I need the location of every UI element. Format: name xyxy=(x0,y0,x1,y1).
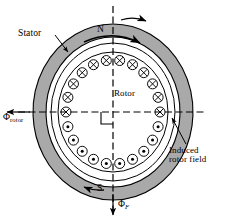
conductor-cross xyxy=(77,68,87,78)
machine-cross-section-figure: Stator N S Rotor Φrotor ΦF Inducedrotor … xyxy=(0,0,226,221)
south-pole-label: S xyxy=(97,184,102,194)
conductor-cross xyxy=(101,56,111,66)
phi-rotor-subscript: rotor xyxy=(10,116,23,123)
conductor-cross xyxy=(153,92,163,102)
conductor-cross xyxy=(68,79,78,89)
phi-field-label: ΦF xyxy=(118,200,129,210)
conductor-dot xyxy=(148,135,158,145)
conductor-dot xyxy=(139,146,149,156)
conductor-cross xyxy=(115,56,125,66)
conductor-dot xyxy=(153,122,163,132)
conductor-dot xyxy=(63,122,73,132)
phi-rotor-symbol: Φ xyxy=(3,112,10,122)
conductor-cross xyxy=(63,92,73,102)
conductor-dot xyxy=(128,154,138,164)
conductor-cross xyxy=(88,60,98,70)
conductor-dot xyxy=(68,135,78,145)
conductor-cross xyxy=(128,60,138,70)
induced-field-line2: rotor field xyxy=(169,155,206,164)
conductor-dot xyxy=(88,154,98,164)
north-pole-label: N xyxy=(97,25,104,35)
phi-field-symbol: Φ xyxy=(118,199,125,209)
phi-rotor-label: Φrotor xyxy=(3,113,23,123)
stator-label: Stator xyxy=(18,29,41,39)
conductor-dot xyxy=(77,146,87,156)
phi-field-subscript: F xyxy=(125,203,129,210)
conductor-dot xyxy=(115,158,125,168)
rotor-label: Rotor xyxy=(114,89,135,98)
conductor-dot xyxy=(101,158,111,168)
top-rotation-arrow xyxy=(121,18,146,21)
conductor-cross xyxy=(148,79,158,89)
induced-rotor-field-label: Inducedrotor field xyxy=(169,146,206,165)
conductor-cross xyxy=(139,68,149,78)
